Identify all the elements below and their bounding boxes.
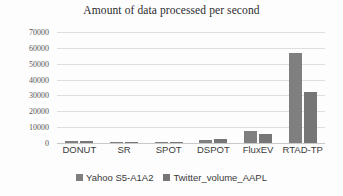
y-axis-tick-label: 30000: [29, 91, 49, 100]
chart-container: Amount of data processed per second 0100…: [0, 0, 343, 196]
y-axis-tick-label: 40000: [29, 75, 49, 84]
y-axis-tick-label: 70000: [29, 28, 49, 37]
bar[interactable]: [110, 142, 123, 143]
legend-swatch-icon: [76, 174, 83, 181]
bar[interactable]: [199, 140, 212, 143]
bar[interactable]: [65, 141, 78, 143]
bar-group: [280, 32, 325, 143]
x-axis-tick-label: SPOT: [146, 144, 191, 155]
bar[interactable]: [155, 142, 168, 143]
plot-area: [57, 32, 325, 143]
bar[interactable]: [80, 141, 93, 143]
x-axis: DONUTSRSPOTDSPOTFluxEVRTAD-TP: [57, 144, 325, 155]
y-axis-tick-label: 20000: [29, 107, 49, 116]
bar[interactable]: [214, 139, 227, 143]
bar[interactable]: [289, 53, 302, 143]
x-axis-tick-label: RTAD-TP: [280, 144, 325, 155]
legend-swatch-icon: [163, 174, 170, 181]
bar-group: [146, 32, 191, 143]
bar[interactable]: [259, 134, 272, 144]
y-axis-tick-label: 10000: [29, 123, 49, 132]
y-axis-tick-label: 60000: [29, 43, 49, 52]
x-axis-tick-label: SR: [102, 144, 147, 155]
x-axis-tick-label: DSPOT: [191, 144, 236, 155]
x-axis-tick-label: DONUT: [57, 144, 102, 155]
y-axis: 010000200003000040000500006000070000: [0, 32, 53, 143]
bar-group: [191, 32, 236, 143]
x-axis-tick-label: FluxEV: [236, 144, 281, 155]
legend-label: Twitter_volume_AAPL: [173, 172, 266, 183]
y-axis-tick-label: 50000: [29, 59, 49, 68]
bar[interactable]: [170, 142, 183, 143]
bar-group: [236, 32, 281, 143]
bar[interactable]: [304, 92, 317, 143]
bar[interactable]: [125, 142, 138, 143]
legend-item[interactable]: Twitter_volume_AAPL: [163, 172, 266, 183]
y-axis-tick-label: 0: [45, 139, 49, 148]
bar-group: [102, 32, 147, 143]
legend-label: Yahoo S5-A1A2: [86, 172, 153, 183]
chart-title: Amount of data processed per second: [0, 4, 343, 16]
bar-group: [57, 32, 102, 143]
bar[interactable]: [244, 131, 257, 143]
legend-item[interactable]: Yahoo S5-A1A2: [76, 172, 153, 183]
bars-layer: [57, 32, 325, 143]
chart-legend: Yahoo S5-A1A2Twitter_volume_AAPL: [0, 172, 343, 183]
